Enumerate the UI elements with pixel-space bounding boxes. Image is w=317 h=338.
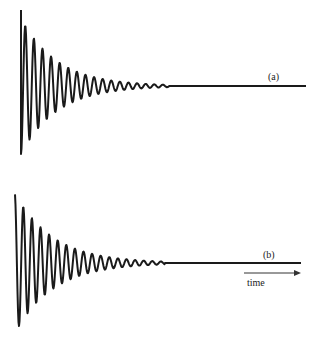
waveform-a xyxy=(21,10,306,154)
waveform-b xyxy=(15,194,301,326)
time-axis-label: time xyxy=(247,277,265,288)
panel-label-b: (b) xyxy=(263,249,275,260)
damped-oscillation-figure xyxy=(0,0,317,338)
panel-label-a: (a) xyxy=(268,71,279,82)
right-arrow-icon xyxy=(294,270,301,276)
time-arrow xyxy=(244,270,301,276)
